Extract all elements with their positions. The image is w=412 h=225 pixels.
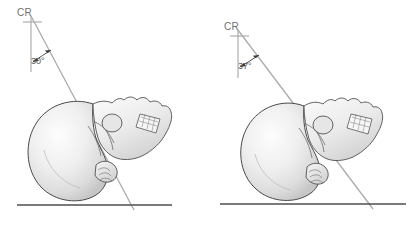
angle-label-right: 37° xyxy=(238,62,252,71)
mandible-ramus xyxy=(306,163,328,184)
cr-label-right: CR xyxy=(224,22,239,32)
angle-label-left: 30° xyxy=(31,57,45,66)
mandible-ramus xyxy=(95,161,117,182)
panel-left-graphic xyxy=(0,0,206,225)
panel-right-graphic xyxy=(206,0,412,225)
diagram-panel-left: CR 30° xyxy=(0,0,206,225)
diagram-panel-right: CR 37° xyxy=(206,0,412,225)
skull-cr-angle-diagram: CR 30° xyxy=(0,0,412,225)
cr-label-left: CR xyxy=(17,8,32,18)
